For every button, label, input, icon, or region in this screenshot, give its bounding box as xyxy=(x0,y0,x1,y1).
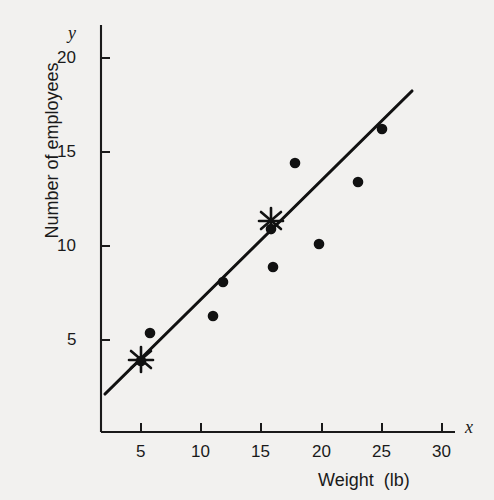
scatter-plot-figure: 20 15 10 5 5 10 15 20 25 30 y x Weight (… xyxy=(0,0,494,500)
y-axis-ticks xyxy=(101,58,110,340)
data-points xyxy=(136,124,388,367)
y-tick-label-15: 15 xyxy=(57,143,76,160)
data-point xyxy=(145,328,156,339)
x-axis-symbol: x xyxy=(465,418,473,436)
x-tick-label-15: 15 xyxy=(251,443,270,460)
data-point xyxy=(377,124,388,135)
data-point xyxy=(290,158,301,169)
data-point xyxy=(218,277,229,288)
x-tick-label-5: 5 xyxy=(136,443,145,460)
star-marker xyxy=(259,208,283,233)
data-point xyxy=(353,177,364,188)
y-tick-label-5: 5 xyxy=(67,331,76,348)
x-tick-label-20: 20 xyxy=(312,443,331,460)
x-tick-label-10: 10 xyxy=(191,443,210,460)
data-point xyxy=(314,239,325,250)
x-axis-ticks xyxy=(141,423,442,432)
y-axis-symbol: y xyxy=(68,24,76,42)
data-point xyxy=(208,311,219,322)
best-fit-line xyxy=(105,91,412,394)
y-tick-label-20: 20 xyxy=(57,49,76,66)
x-axis-title: Weight (lb) xyxy=(318,471,410,489)
x-tick-label-30: 30 xyxy=(432,443,451,460)
x-tick-label-25: 25 xyxy=(372,443,391,460)
data-point xyxy=(268,262,279,273)
y-tick-label-10: 10 xyxy=(57,237,76,254)
star-marker xyxy=(129,347,153,372)
